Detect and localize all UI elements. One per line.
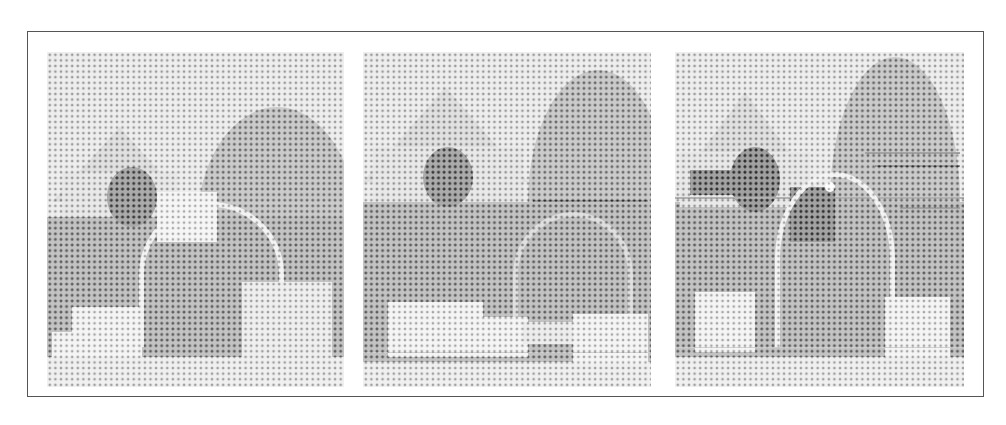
floor-band [47, 357, 344, 387]
ground-block [695, 292, 755, 352]
floor-line [363, 352, 651, 353]
fence-line [865, 152, 960, 154]
tree [423, 147, 473, 207]
fence-line [900, 207, 960, 209]
arch-highlight [825, 182, 835, 192]
floor-band [675, 357, 964, 387]
halftone-panel-2 [363, 52, 651, 387]
ground-block [885, 297, 950, 357]
ground-block [157, 192, 217, 242]
arch-object [775, 172, 895, 347]
ground-block [242, 282, 332, 357]
ground-block [573, 314, 648, 369]
floor-line [675, 347, 964, 348]
fence-line [875, 165, 960, 167]
fence-line [533, 200, 648, 202]
ground-block [523, 322, 573, 344]
halftone-panel-3 [675, 52, 964, 387]
ground-block [388, 302, 483, 357]
dark-shrub [690, 170, 735, 195]
ground-block [72, 307, 142, 357]
tree [730, 147, 780, 212]
ground-block [473, 317, 528, 357]
halftone-panel-1 [47, 52, 344, 387]
floor-band [363, 364, 651, 387]
tree [107, 167, 157, 227]
